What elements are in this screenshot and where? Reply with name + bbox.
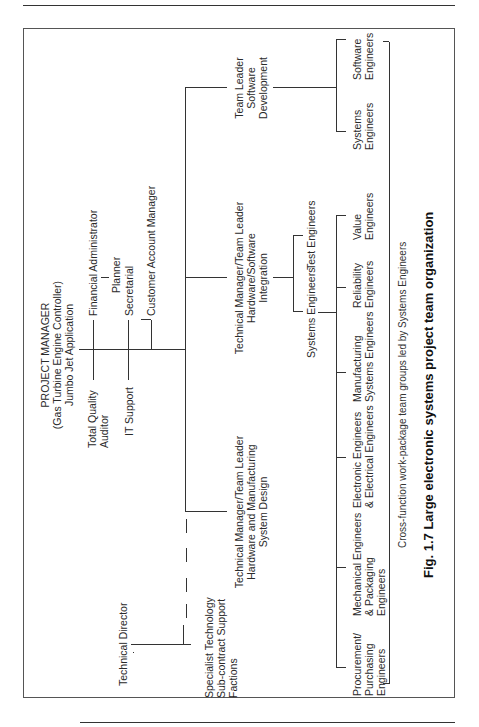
wp-drop-0 — [336, 667, 346, 668]
integration-systems-engineers: Systems Engineers — [305, 268, 317, 358]
td-bar — [183, 625, 184, 645]
dashed-link-1 — [186, 519, 187, 533]
work-package-value: Value Engineers — [351, 193, 375, 240]
drop-sw-dev — [185, 87, 227, 88]
integration-bar — [293, 236, 294, 312]
header-rule — [23, 5, 455, 6]
td-link — [133, 652, 134, 653]
wp-drop-5 — [336, 215, 346, 216]
wp-drop-4 — [336, 287, 346, 288]
figure-caption: Fig. 1.7 Large electronic systems projec… — [421, 212, 436, 578]
it-support: IT Support — [123, 387, 135, 436]
int-drop-test — [293, 235, 303, 236]
wp-drop-3 — [336, 372, 346, 373]
total-quality-auditor: Total Quality Auditor — [86, 390, 110, 448]
sys-stem — [318, 312, 336, 313]
pm-stem — [79, 349, 185, 350]
cross-function-bracket — [389, 42, 390, 684]
bracket-end-right — [383, 41, 389, 42]
work-package-procurement: Procurement/ Purchasing Engineers — [351, 633, 387, 696]
project-manager: PROJECT MANAGER (Gas Turbine Engine Cont… — [39, 270, 75, 440]
hw-sw-stem — [273, 277, 293, 278]
work-package-manufacturing: Manufacturing Systems Engineers — [351, 312, 375, 402]
financial-administrator: Financial Administrator — [87, 210, 99, 316]
work-package-electronic: Electronic Engineers & Electrical Engine… — [351, 405, 375, 508]
main-bus — [185, 87, 186, 512]
technical-director: Technical Director — [117, 603, 129, 686]
test-engineers: Test Engineers — [305, 201, 317, 270]
td-stem — [131, 644, 191, 645]
staff-line-it — [128, 320, 129, 380]
cross-function-note: Cross-function work-package team groups … — [397, 242, 408, 548]
bracket-end-left — [383, 683, 389, 684]
wp-bar — [336, 216, 337, 668]
sw-drop-1 — [336, 39, 346, 40]
sw-stem — [273, 87, 336, 88]
sw-systems-engineers: Systems Engineers — [351, 103, 375, 150]
sw-bar — [336, 40, 337, 132]
footer-rule — [80, 722, 455, 723]
specialist-technology: Specialist Technology Sub-contract Suppo… — [203, 597, 239, 698]
finance-planner-link — [101, 277, 109, 278]
planner: Planner — [110, 257, 122, 293]
dashed-link-3 — [186, 578, 187, 592]
sw-software-engineers: Software Engineers — [351, 33, 375, 80]
sw-drop-0 — [336, 131, 346, 132]
wp-drop-1 — [336, 567, 346, 568]
secretarial: Secretarial — [123, 266, 135, 316]
drop-hw-sw — [185, 277, 227, 278]
int-drop-systems — [293, 311, 303, 312]
hw-mfg-manager: Technical Manager/Team Leader Hardware a… — [233, 432, 269, 592]
org-chart: PROJECT MANAGER (Gas Turbine Engine Cont… — [23, 28, 455, 698]
customer-account-manager: Customer Account Manager — [145, 186, 157, 316]
staff-line-customer — [151, 320, 152, 350]
work-package-mechanical: Mechanical Engineers & Packaging Enginee… — [351, 513, 387, 616]
staff-line-quality — [93, 320, 94, 380]
hw-sw-manager: Technical Manager/Team Leader Hardware/S… — [233, 198, 269, 358]
drop-hw-mfg — [185, 511, 227, 512]
dashed-link-2 — [186, 548, 187, 562]
wp-drop-2 — [336, 457, 346, 458]
dashed-link-4 — [186, 604, 187, 618]
staff-tick-customer — [141, 319, 151, 320]
work-package-reliability: Reliability Engineers — [351, 261, 375, 308]
sw-dev-leader: Team Leader Software Development — [233, 38, 269, 138]
